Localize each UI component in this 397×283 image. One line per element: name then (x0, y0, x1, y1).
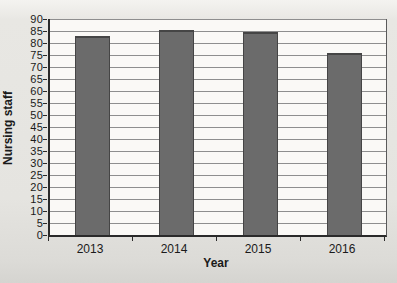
y-tick-mark (43, 127, 47, 128)
plot-area (48, 19, 387, 237)
y-tick-label-75: 75 (17, 50, 43, 61)
x-tick-label-2014: 2014 (144, 243, 204, 255)
y-tick-label-85: 85 (17, 26, 43, 37)
x-tick-mark (216, 237, 217, 241)
y-tick-mark (43, 235, 47, 236)
y-tick-label-30: 30 (17, 158, 43, 169)
x-tick-mark (132, 237, 133, 241)
x-tick-label-2015: 2015 (228, 243, 288, 255)
bar-2014 (159, 30, 194, 235)
x-tick-mark (384, 237, 385, 241)
y-tick-label-50: 50 (17, 110, 43, 121)
y-tick-label-20: 20 (17, 182, 43, 193)
y-tick-label-40: 40 (17, 134, 43, 145)
y-tick-label-60: 60 (17, 86, 43, 97)
y-tick-mark (43, 43, 47, 44)
y-tick-label-10: 10 (17, 206, 43, 217)
y-tick-mark (43, 67, 47, 68)
x-tick-mark (300, 237, 301, 241)
y-tick-mark (43, 31, 47, 32)
y-tick-mark (43, 115, 47, 116)
y-tick-label-15: 15 (17, 194, 43, 205)
y-tick-mark (43, 139, 47, 140)
y-tick-label-5: 5 (17, 218, 43, 229)
y-tick-mark (43, 187, 47, 188)
y-tick-mark (43, 223, 47, 224)
x-axis-title: Year (156, 256, 276, 270)
y-tick-mark (43, 79, 47, 80)
y-tick-label-80: 80 (17, 38, 43, 49)
y-tick-mark (43, 211, 47, 212)
y-tick-mark (43, 163, 47, 164)
gridline-90 (50, 19, 386, 20)
chart-figure: 051015202530354045505560657075808590 201… (0, 0, 397, 283)
bar-2013 (75, 36, 110, 235)
y-tick-mark (43, 103, 47, 104)
y-tick-label-70: 70 (17, 62, 43, 73)
y-tick-mark (43, 91, 47, 92)
y-tick-label-45: 45 (17, 122, 43, 133)
y-tick-mark (43, 55, 47, 56)
y-tick-mark (43, 19, 47, 20)
y-tick-mark (43, 175, 47, 176)
y-tick-mark (43, 199, 47, 200)
y-tick-label-65: 65 (17, 74, 43, 85)
gridline-85 (50, 31, 386, 32)
y-tick-label-25: 25 (17, 170, 43, 181)
bar-2016 (327, 53, 362, 235)
bar-2015 (243, 32, 278, 235)
y-tick-label-55: 55 (17, 98, 43, 109)
y-axis-title: Nursing staff (1, 73, 15, 183)
y-tick-label-35: 35 (17, 146, 43, 157)
y-tick-label-90: 90 (17, 14, 43, 25)
y-tick-mark (43, 151, 47, 152)
y-tick-label-0: 0 (17, 230, 43, 241)
x-tick-mark (48, 237, 49, 241)
x-tick-label-2016: 2016 (312, 243, 372, 255)
x-tick-label-2013: 2013 (60, 243, 120, 255)
